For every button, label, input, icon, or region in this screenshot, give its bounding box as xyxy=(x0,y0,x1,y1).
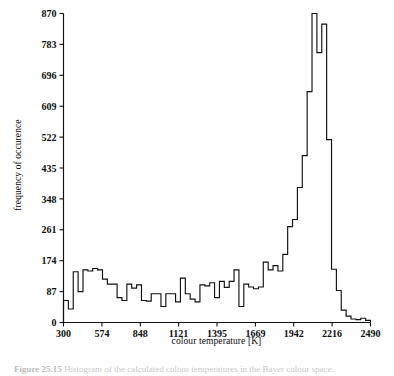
figure-caption-number: Figure 25.15 xyxy=(14,364,62,374)
histogram-chart: 087174261348435522609696783870 300574848… xyxy=(0,0,394,352)
y-tick-label: 783 xyxy=(42,39,57,50)
y-axis-ticks: 087174261348435522609696783870 xyxy=(42,8,64,328)
y-tick-label: 87 xyxy=(47,286,57,297)
y-tick-label: 435 xyxy=(42,163,57,174)
histogram-plot-svg: 087174261348435522609696783870 300574848… xyxy=(0,0,394,352)
y-tick-label: 522 xyxy=(42,132,57,143)
axis-lines xyxy=(64,14,371,323)
y-tick-label: 609 xyxy=(42,101,57,112)
figure-container: 087174261348435522609696783870 300574848… xyxy=(0,0,394,376)
y-tick-label: 174 xyxy=(42,255,57,266)
figure-caption: Figure 25.15 Histogram of the calculated… xyxy=(14,364,380,375)
y-tick-label: 261 xyxy=(42,224,57,235)
histogram-step-line xyxy=(64,14,371,323)
y-tick-label: 870 xyxy=(42,8,57,19)
y-tick-label: 0 xyxy=(52,317,57,328)
y-tick-label: 696 xyxy=(42,70,57,81)
x-axis-title: colour temperature [K] xyxy=(63,336,370,346)
y-axis-title: frequency of occurence xyxy=(13,65,23,265)
figure-caption-text: Histogram of the calculated colour tempe… xyxy=(64,364,334,374)
y-tick-label: 348 xyxy=(42,194,57,205)
